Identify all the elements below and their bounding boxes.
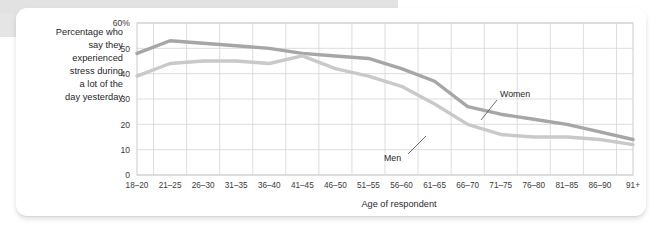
x-tick-label: 46–50 [324,181,347,190]
x-tick-label: 56–60 [390,181,413,190]
men-leader-line [408,136,426,154]
y-tick-label: 0 [125,170,130,180]
line-chart: Percentage who say they experienced stre… [16,8,646,216]
x-tick-label: 91+ [626,181,640,190]
x-tick-label: 51–55 [357,181,380,190]
x-tick-label: 61–65 [423,181,446,190]
x-tick-label: 66–70 [456,181,479,190]
x-tick-label: 71–75 [489,181,512,190]
y-axis-caption-line-5: day yesterday [65,92,123,102]
x-axis-title: Age of respondent [361,199,437,209]
y-tick-label: 20 [120,120,130,130]
x-tick-label: 81–85 [555,181,578,190]
x-tick-label: 18–20 [126,181,149,190]
x-tick-label: 76–80 [522,181,545,190]
y-axis-caption-line-3: stress during [70,66,123,76]
y-tick-label: 30 [120,94,130,104]
y-tick-label: 10 [120,145,130,155]
y-axis-caption-line-0: Percentage who [56,27,123,37]
x-tick-label: 26–30 [192,181,215,190]
figure-root: Percentage who say they experienced stre… [0,0,662,233]
x-tick-label: 21–25 [159,181,182,190]
y-tick-label: 60% [113,18,131,28]
chart-card: Percentage who say they experienced stre… [16,8,646,216]
y-axis-caption-line-4: a lot of the [80,79,123,89]
women-annotation-label: Women [500,89,530,99]
x-tick-label: 41–45 [291,181,314,190]
y-tick-label: 50 [120,44,130,54]
x-tick-label: 86–90 [589,181,612,190]
men-annotation-label: Men [384,153,401,163]
x-axis-tick-labels: 18–2021–2526–3031–3536–4041–4546–5051–55… [126,181,641,190]
y-tick-label: 40 [120,69,130,79]
x-tick-label: 36–40 [258,181,281,190]
x-tick-label: 31–35 [225,181,248,190]
y-axis-caption: Percentage who say they experienced stre… [56,27,124,102]
y-axis-caption-line-1: say they [88,40,123,50]
y-axis-caption-line-2: experienced [72,53,123,63]
